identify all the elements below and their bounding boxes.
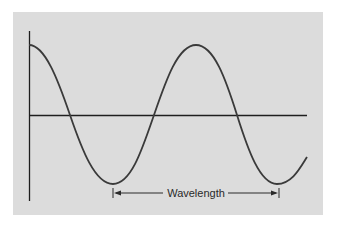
wave-diagram: Wavelength <box>0 0 337 226</box>
wavelength-label: Wavelength <box>167 187 225 199</box>
wave-curve <box>29 45 307 184</box>
arrowhead-right-icon <box>271 191 278 196</box>
wavelength-marker: Wavelength <box>113 187 279 199</box>
arrowhead-left-icon <box>114 191 121 196</box>
